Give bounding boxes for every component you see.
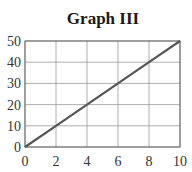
y-tick-label: 10: [7, 119, 21, 134]
line-chart: 024681001020304050: [0, 0, 192, 172]
x-tick-label: 4: [84, 154, 91, 169]
x-tick-label: 2: [53, 154, 60, 169]
x-tick-label: 8: [146, 154, 153, 169]
y-tick-label: 40: [7, 55, 21, 70]
x-tick-label: 6: [115, 154, 122, 169]
y-tick-label: 20: [7, 98, 21, 113]
y-tick-label: 30: [7, 76, 21, 91]
y-tick-label: 0: [14, 140, 21, 155]
x-tick-label: 0: [22, 154, 29, 169]
y-tick-label: 50: [7, 34, 21, 49]
data-line: [25, 41, 180, 147]
x-tick-label: 10: [173, 154, 187, 169]
